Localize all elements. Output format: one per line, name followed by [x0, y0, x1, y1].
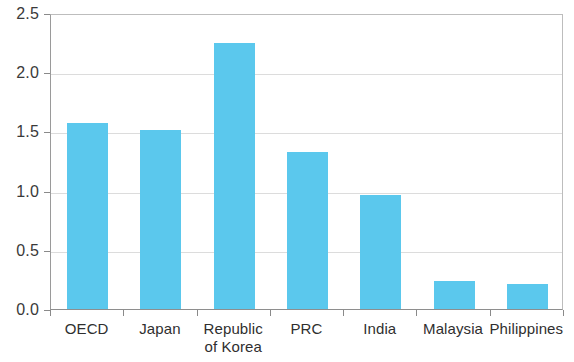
bar [214, 43, 255, 309]
bar [360, 195, 401, 309]
bar [287, 152, 328, 309]
x-axis-tick-mark [343, 310, 344, 316]
plot-area [50, 14, 563, 310]
x-axis-tick-mark [50, 310, 51, 316]
gridline [51, 74, 562, 75]
bar [507, 284, 548, 309]
bar [434, 281, 475, 309]
x-axis-tick-mark [490, 310, 491, 316]
y-axis-tick-label: 1.0 [0, 184, 39, 200]
x-axis-tick-mark [197, 310, 198, 316]
bar-chart: 0.00.51.01.52.02.5 OECDJapanRepublic of … [0, 0, 574, 362]
y-axis-tick-label: 1.5 [0, 124, 39, 140]
bar [140, 130, 181, 309]
x-axis-tick-mark [563, 310, 564, 316]
x-axis-tick-mark [123, 310, 124, 316]
bar [67, 123, 108, 309]
x-axis-tick-label: Philippines [484, 320, 569, 338]
y-axis-tick-label: 2.0 [0, 65, 39, 81]
gridline [51, 133, 562, 134]
x-axis-tick-mark [270, 310, 271, 316]
y-axis-tick-label: 0.5 [0, 243, 39, 259]
y-axis-tick-label: 2.5 [0, 6, 39, 22]
x-axis-tick-mark [416, 310, 417, 316]
y-axis-tick-label: 0.0 [0, 302, 39, 318]
